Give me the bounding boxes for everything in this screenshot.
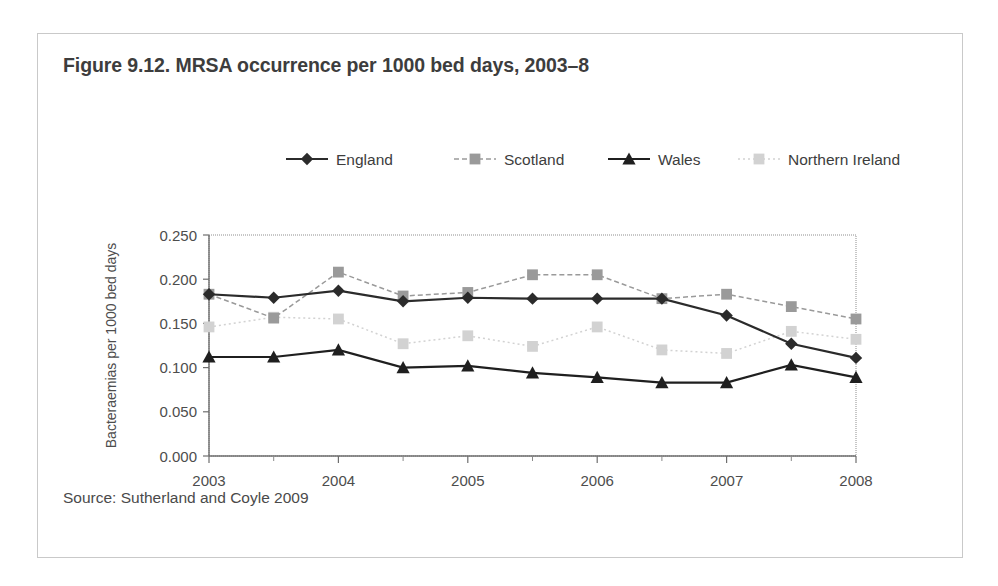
data-point-scotland-square	[527, 269, 538, 280]
y-axis-title: Bacteraemias per 1000 bed days	[103, 243, 119, 448]
data-point-northern-ireland-square	[851, 334, 862, 345]
chart-plot: EnglandScotlandWalesNorthern Ireland0.00…	[38, 89, 964, 489]
legend-item-wales[interactable]: Wales	[608, 151, 701, 168]
legend-label-scotland: Scotland	[504, 151, 564, 168]
x-axis-tick-label: 2003	[192, 472, 225, 489]
x-axis-tick-label: 2006	[581, 472, 614, 489]
y-axis-tick-label: 0.150	[159, 315, 197, 332]
data-point-scotland-square	[592, 269, 603, 280]
data-point-scotland-square	[851, 314, 862, 325]
legend-marker-square	[754, 154, 765, 165]
legend-item-england[interactable]: England	[286, 151, 393, 168]
data-point-scotland-square	[786, 301, 797, 312]
x-axis-tick-label: 2004	[322, 472, 355, 489]
figure-title: Figure 9.12. MRSA occurrence per 1000 be…	[63, 54, 589, 77]
y-axis-tick-label: 0.000	[159, 448, 197, 465]
data-point-northern-ireland-square	[527, 341, 538, 352]
data-point-northern-ireland-square	[462, 330, 473, 341]
legend-marker-square	[470, 154, 481, 165]
legend-label-england: England	[336, 151, 393, 168]
data-point-northern-ireland-square	[592, 322, 603, 333]
data-point-northern-ireland-square	[204, 322, 215, 333]
y-axis-tick-label: 0.200	[159, 271, 197, 288]
data-point-scotland-square	[721, 289, 732, 300]
legend-marker-diamond	[301, 153, 313, 165]
source-note: Source: Sutherland and Coyle 2009	[63, 489, 309, 507]
legend-item-northern-ireland[interactable]: Northern Ireland	[738, 151, 900, 168]
y-axis-tick-label: 0.050	[159, 403, 197, 420]
x-axis-tick-label: 2007	[710, 472, 743, 489]
data-point-northern-ireland-square	[786, 326, 797, 337]
data-point-scotland-square	[268, 313, 279, 324]
chart-svg: EnglandScotlandWalesNorthern Ireland0.00…	[38, 89, 964, 489]
x-axis-tick-label: 2008	[839, 472, 872, 489]
legend-label-wales: Wales	[658, 151, 701, 168]
data-point-northern-ireland-square	[333, 314, 344, 325]
legend-label-northern-ireland: Northern Ireland	[788, 151, 900, 168]
legend-item-scotland[interactable]: Scotland	[454, 151, 564, 168]
y-axis-tick-label: 0.100	[159, 359, 197, 376]
data-point-northern-ireland-square	[657, 345, 668, 356]
data-point-scotland-square	[333, 267, 344, 278]
figure-container: Figure 9.12. MRSA occurrence per 1000 be…	[37, 33, 963, 558]
x-axis-tick-label: 2005	[451, 472, 484, 489]
data-point-northern-ireland-square	[721, 348, 732, 359]
y-axis-tick-label: 0.250	[159, 227, 197, 244]
data-point-northern-ireland-square	[398, 338, 409, 349]
